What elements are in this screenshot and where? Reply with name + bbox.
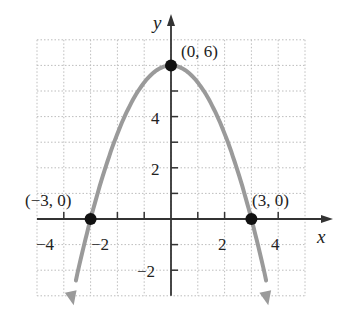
parabola-curve [65, 65, 271, 305]
y-axis-arrow-icon [167, 14, 175, 26]
y-tick-label-4: 4 [151, 109, 160, 128]
parabola-chart: x y −4 −2 2 4 4 2 −2 (0, 6) (−3, 0) (3, … [0, 0, 356, 311]
data-point [85, 213, 97, 225]
y-tick-label-2: 2 [151, 160, 160, 179]
right-intercept-label: (3, 0) [252, 191, 289, 210]
x-axis-label: x [316, 226, 326, 247]
data-point [165, 59, 177, 71]
x-tick-label-neg2: −2 [91, 235, 109, 254]
y-tick-label-neg2: −2 [137, 262, 155, 281]
data-point [245, 213, 257, 225]
right-arrow-icon [259, 290, 271, 305]
left-arrow-icon [65, 290, 77, 305]
left-intercept-label: (−3, 0) [25, 191, 71, 210]
y-axis-label: y [151, 12, 162, 33]
x-tick-label-4: 4 [271, 235, 280, 254]
vertex-label: (0, 6) [181, 42, 218, 61]
x-axis-arrow-icon [321, 215, 333, 223]
x-tick-label-2: 2 [218, 235, 227, 254]
x-tick-label-neg4: −4 [36, 235, 55, 254]
